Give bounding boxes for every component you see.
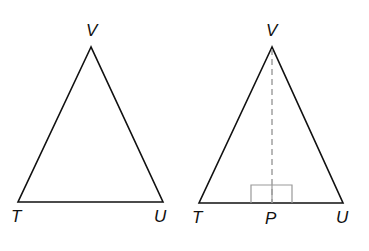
triangle-left: V T U	[11, 21, 167, 226]
vertex-label-v: V	[86, 21, 99, 40]
diagram-canvas: V T U V T P U	[0, 0, 369, 251]
vertex-label-u: U	[154, 207, 167, 226]
triangle-tuv-outline	[18, 47, 163, 202]
vertex-label-u-2: U	[336, 208, 349, 227]
vertex-label-t-2: T	[192, 208, 204, 227]
triangle-right: V T P U	[192, 21, 349, 228]
vertex-label-v-2: V	[266, 21, 279, 40]
foot-label-p: P	[265, 209, 277, 228]
vertex-label-t: T	[11, 207, 23, 226]
triangle-tuv-outline-2	[199, 47, 343, 203]
